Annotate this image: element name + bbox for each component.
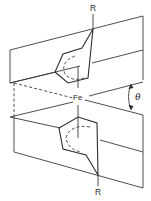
substituent-r-bottom: R — [95, 188, 101, 197]
upper-cp-ring — [55, 14, 93, 88]
ferrocene-diagram: R Fe θ R — [0, 0, 151, 201]
substituent-r-top: R — [90, 4, 96, 13]
hidden-edges — [14, 83, 73, 117]
theta-angle-label: θ — [135, 91, 140, 102]
iron-atom-label: Fe — [73, 94, 82, 102]
tilt-angle-arrow — [129, 84, 134, 110]
